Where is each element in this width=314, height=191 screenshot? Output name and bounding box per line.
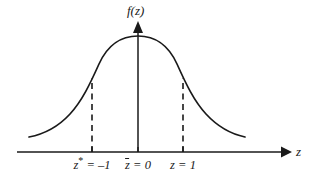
horizontal-axis-label: z <box>296 145 301 158</box>
center-axis-arrowhead <box>133 21 143 33</box>
tick-label-left-value: –1 <box>98 158 111 172</box>
tick-label-mid-relation: = <box>130 158 145 172</box>
tick-label-left-relation: = <box>83 158 98 172</box>
bell-curve <box>29 36 245 137</box>
figure-canvas <box>0 0 314 191</box>
tick-label-z-one: z = 1 <box>170 159 196 172</box>
vertical-axis-label: f(z) <box>127 4 144 17</box>
tick-label-z-star-minus-one: z* = –1 <box>73 159 110 172</box>
normal-distribution-figure: f(z) z z* = –1 z = 0 z = 1 <box>0 0 314 191</box>
tick-label-mid-value: 0 <box>145 158 151 172</box>
tick-label-right-relation: = <box>175 158 190 172</box>
tick-label-right-value: 1 <box>190 158 196 172</box>
horizontal-axis-arrowhead <box>281 147 292 158</box>
tick-label-z-bar-zero: z = 0 <box>125 159 151 172</box>
tick-label-mid-variable: z <box>125 159 130 172</box>
